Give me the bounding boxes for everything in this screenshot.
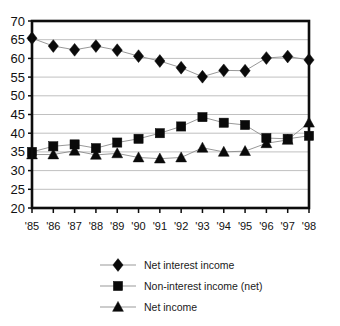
y-axis-tick-label: 20 <box>11 201 25 216</box>
chart-figure: 2025303540455055606570 '85'86'87'88'89'9… <box>0 0 340 326</box>
x-axis-tick-label: '93 <box>195 220 209 232</box>
legend-item-label: Net income <box>144 301 197 313</box>
square-marker-icon <box>240 120 249 129</box>
x-axis-tick-label: '94 <box>217 220 231 232</box>
x-axis-tick-label: '98 <box>302 220 316 232</box>
square-marker-icon <box>198 113 207 122</box>
x-axis-tick-label: '91 <box>153 220 167 232</box>
y-axis-tick-label: 70 <box>11 14 25 29</box>
legend-item-label: Non-interest income (net) <box>144 280 262 292</box>
y-axis-tick-label: 40 <box>11 126 25 141</box>
legend-item-label: Net interest income <box>144 259 235 271</box>
y-axis-tick-label: 30 <box>11 163 25 178</box>
x-axis-tick-label: '92 <box>174 220 188 232</box>
square-marker-icon <box>177 122 186 131</box>
x-axis-tick-label: '90 <box>131 220 145 232</box>
square-marker-icon <box>155 129 164 138</box>
x-axis-tick-label: '87 <box>67 220 81 232</box>
y-axis-tick-label: 65 <box>11 32 25 47</box>
y-axis-tick-label: 55 <box>11 70 25 85</box>
y-axis-tick-label: 25 <box>11 182 25 197</box>
y-axis-tick-label: 60 <box>11 51 25 66</box>
y-axis-tick-label: 35 <box>11 144 25 159</box>
x-axis-tick-label: '85 <box>25 220 39 232</box>
x-axis-tick-label: '95 <box>238 220 252 232</box>
square-marker-icon <box>113 281 122 290</box>
square-marker-icon <box>134 134 143 143</box>
x-axis-tick-label: '97 <box>281 220 295 232</box>
square-marker-icon <box>219 118 228 127</box>
x-axis-tick-label: '96 <box>259 220 273 232</box>
x-axis-tick-label: '89 <box>110 220 124 232</box>
y-axis-tick-label: 50 <box>11 88 25 103</box>
square-marker-icon <box>113 138 122 147</box>
x-axis-tick-label: '86 <box>46 220 60 232</box>
x-axis-tick-label: '88 <box>89 220 103 232</box>
y-axis-tick-label: 45 <box>11 107 25 122</box>
line-chart: 2025303540455055606570 '85'86'87'88'89'9… <box>0 0 340 326</box>
y-axis-tick-labels: 2025303540455055606570 <box>11 14 25 216</box>
